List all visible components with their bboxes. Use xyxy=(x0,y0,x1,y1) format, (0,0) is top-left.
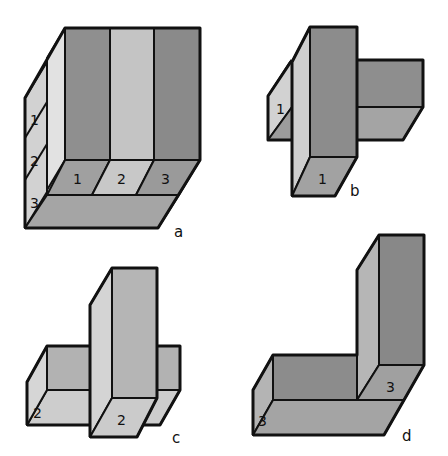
front-floor-d xyxy=(253,400,404,435)
diagram-canvas: 1 2 3 1 2 3 a 1 1 b xyxy=(0,0,448,456)
arm-back-d xyxy=(273,355,357,400)
figure-c: 2 2 c xyxy=(27,268,180,447)
floor-label-a-2: 2 xyxy=(117,171,126,187)
caption-d: d xyxy=(402,427,412,445)
caption-a: a xyxy=(174,223,183,241)
floor-label-a-3: 3 xyxy=(161,171,170,187)
figure-d: 3 3 d xyxy=(253,235,424,445)
floor-label-a-1: 1 xyxy=(73,171,82,187)
figure-a: 1 2 3 1 2 3 a xyxy=(25,28,200,241)
side-label-d: 3 xyxy=(258,413,267,429)
caption-b: b xyxy=(350,182,360,200)
column-front-b xyxy=(310,27,357,157)
floor-label-b: 1 xyxy=(318,171,327,187)
arm-front-b xyxy=(357,60,423,107)
caption-c: c xyxy=(172,429,180,447)
side-label-a-2: 2 xyxy=(30,153,39,169)
side-label-a-3: 3 xyxy=(30,195,39,211)
side-label-b: 1 xyxy=(276,101,285,117)
figure-b: 1 1 b xyxy=(268,27,423,200)
column-a-3 xyxy=(154,28,200,160)
base-slab-a xyxy=(25,195,179,228)
column-a-2 xyxy=(110,28,154,160)
column-a-1 xyxy=(65,28,110,160)
floor-label-c: 2 xyxy=(117,412,126,428)
column-front-c xyxy=(112,268,157,398)
side-label-c: 2 xyxy=(33,405,42,421)
side-label-a-1: 1 xyxy=(30,112,39,128)
floor-label-d: 3 xyxy=(386,379,395,395)
column-front-d xyxy=(379,235,424,365)
